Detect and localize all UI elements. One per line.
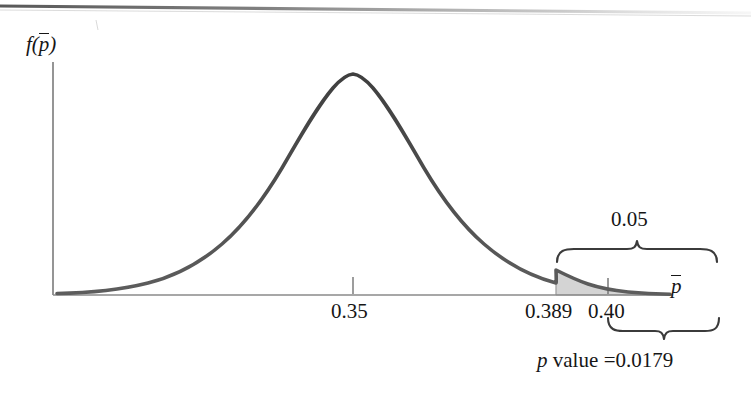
p-bar-letter: p — [39, 32, 50, 55]
alpha-annotation: 0.05 — [611, 209, 648, 230]
x-axis-label: p — [671, 274, 682, 297]
figure-canvas: f(p) p 0.35 0.389 0.40 0.05 p value =0.0… — [0, 0, 751, 394]
pvalue-equals: = — [604, 348, 616, 372]
tick-label-mean: 0.35 — [331, 301, 368, 322]
chart-axes — [53, 62, 672, 295]
y-axis-label-close: ) — [49, 32, 56, 56]
pvalue-p-symbol: p — [537, 348, 548, 372]
scan-artifact-line — [0, 6, 751, 30]
alpha-brace — [557, 241, 717, 262]
pvalue-annotation: p value =0.0179 — [537, 350, 673, 371]
y-axis-label-func: f( — [26, 32, 39, 56]
p-bar-glyph: p — [39, 32, 50, 55]
normal-distribution-figure — [0, 0, 751, 394]
pvalue-number: 0.0179 — [616, 348, 674, 372]
y-axis-label: f(p) — [26, 32, 56, 55]
p-bar-glyph: p — [671, 274, 682, 297]
p-bar-letter: p — [671, 274, 682, 297]
normal-curve — [57, 74, 670, 294]
overbar — [39, 33, 49, 35]
overbar — [671, 275, 681, 277]
pvalue-word-text: value — [553, 348, 598, 372]
tick-label-observed-value: 0.40 — [588, 301, 625, 322]
tick-label-critical-value: 0.389 — [525, 301, 572, 322]
